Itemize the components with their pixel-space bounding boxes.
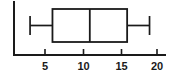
x-axis-tick-label-20: 20 [151,60,163,72]
boxplot-series [30,9,149,42]
boxplot-figure: 5 10 15 20 [0,0,170,74]
x-axis-tick-label-10: 10 [77,60,89,72]
x-axis-tick-label-5: 5 [42,60,48,72]
x-axis-tick-label-15: 15 [115,60,127,72]
boxplot-canvas: 5 10 15 20 [0,0,170,74]
